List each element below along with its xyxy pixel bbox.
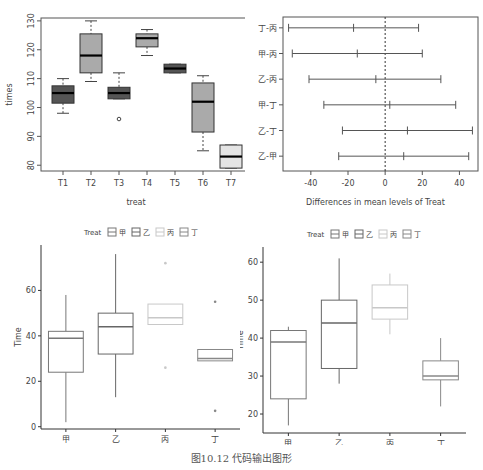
y-axis-label: Time	[240, 330, 245, 351]
ggplot-boxplot-with-outliers: Treat甲乙丙丁0204060Time甲乙丙丁Treat	[0, 215, 245, 445]
x-tick-label: -40	[304, 179, 317, 188]
interval-甲-丙	[292, 50, 422, 58]
box-乙	[98, 254, 133, 397]
x-axis-label: treat	[126, 198, 145, 207]
y-tick-label: 80	[27, 160, 36, 170]
x-tick-label: T6	[197, 179, 208, 188]
row-label: 乙-甲	[258, 152, 277, 161]
box-T1	[52, 79, 74, 114]
legend-entry: 丁	[414, 231, 421, 239]
y-tick-label: 100	[27, 100, 36, 115]
interval-乙-丁	[342, 127, 472, 135]
row-label: 甲-丙	[258, 50, 277, 59]
box-T5	[164, 64, 186, 73]
x-tick-label: 丙	[386, 439, 394, 445]
x-tick-label: -20	[341, 179, 354, 188]
x-tick-label: 丁	[437, 439, 445, 445]
box-乙	[321, 258, 357, 383]
x-tick-label: 甲	[284, 439, 292, 445]
x-tick-label: 乙	[335, 439, 343, 445]
figure-caption: 图10.12 代码输出图形	[0, 450, 483, 465]
legend: Treat甲乙丙丁	[306, 230, 421, 239]
y-axis-label: Time	[14, 327, 23, 348]
legend-entry: 甲	[342, 231, 349, 239]
row-label: 甲-丁	[258, 101, 277, 110]
box-T2	[80, 21, 102, 82]
y-tick-label: 60	[26, 286, 36, 295]
interval-乙-丙	[309, 75, 441, 83]
box-丁	[198, 300, 233, 412]
y-tick-label: 130	[27, 13, 36, 28]
box-丁	[423, 338, 459, 406]
x-tick-label: T3	[113, 179, 124, 188]
y-tick-label: 90	[27, 131, 36, 141]
tukey-difference-plot: 丁-丙甲-丙乙-丙甲-丁乙-丁乙-甲-40-2002040Differences…	[240, 0, 483, 210]
y-tick-label: 110	[27, 71, 36, 86]
legend-entry: 丁	[191, 229, 198, 237]
y-tick-label: 40	[26, 332, 36, 341]
x-tick-label: 40	[454, 179, 464, 188]
y-tick-label: 60	[248, 258, 258, 267]
svg-text:Treat: Treat	[306, 231, 325, 239]
x-tick-label: 甲	[62, 435, 70, 444]
y-tick-label: 30	[248, 372, 258, 381]
row-label: 乙-丙	[258, 75, 277, 84]
y-tick-label: 20	[248, 410, 258, 419]
box-丙	[372, 274, 408, 335]
box-甲	[271, 327, 307, 426]
x-tick-label: T2	[85, 179, 96, 188]
box-甲	[48, 295, 83, 422]
x-tick-label: T4	[141, 179, 152, 188]
y-tick-label: 50	[248, 296, 258, 305]
y-tick-label: 120	[27, 42, 36, 57]
box-T7	[220, 145, 242, 168]
ggplot-boxplot-trimmed: Treat甲乙丙丁2030405060Time甲乙丙丁Treat	[240, 215, 483, 445]
box-T6	[192, 76, 214, 151]
x-tick-label: 0	[383, 179, 388, 188]
x-tick-label: T5	[169, 179, 180, 188]
x-tick-label: 丙	[161, 435, 169, 444]
y-tick-label: 20	[26, 377, 36, 386]
legend: Treat甲乙丙丁	[83, 228, 198, 237]
legend-entry: 甲	[119, 229, 126, 237]
row-label: 乙-丁	[258, 127, 277, 136]
interval-丁-丙	[289, 24, 419, 32]
legend-entry: 乙	[366, 231, 373, 239]
box-T4	[136, 30, 158, 56]
box-丙	[148, 262, 183, 369]
box-T3	[108, 73, 130, 121]
x-tick-label: 20	[417, 179, 427, 188]
x-tick-label: 乙	[112, 435, 120, 444]
row-label: 丁-丙	[258, 24, 277, 33]
svg-text:Treat: Treat	[83, 229, 102, 237]
x-tick-label: T1	[57, 179, 68, 188]
legend-entry: 乙	[143, 229, 150, 237]
y-tick-label: 0	[31, 423, 36, 432]
boxplot-treat-times: 8090100110120130timesT1T2T3T4T5T6T7treat	[0, 0, 245, 210]
y-axis-label: times	[5, 83, 14, 105]
legend-entry: 丙	[390, 231, 397, 239]
legend-entry: 丙	[167, 229, 174, 237]
y-tick-label: 40	[248, 334, 258, 343]
x-axis-label: Differences in mean levels of Treat	[306, 198, 445, 207]
interval-乙-甲	[339, 152, 469, 160]
plot-frame	[283, 17, 478, 171]
interval-甲-丁	[324, 101, 456, 109]
x-tick-label: 丁	[211, 435, 219, 444]
x-tick-label: T7	[225, 179, 236, 188]
